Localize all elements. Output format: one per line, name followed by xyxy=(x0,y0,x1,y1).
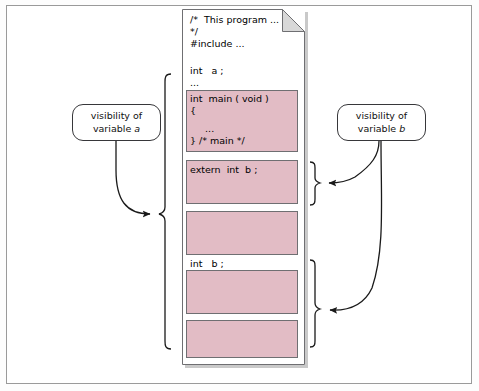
code-line-decl-a: int a ; xyxy=(190,65,224,77)
code-line-ellipsis: ... xyxy=(190,77,199,89)
code-block-extern-b-line-1: extern int b ; xyxy=(190,164,257,176)
callout-visibility-b-prefix: variable xyxy=(358,123,396,134)
code-line-comment-open: /* This program ... xyxy=(190,14,279,26)
callout-visibility-b-line1: visibility of xyxy=(356,110,407,123)
code-line-include: #include ... xyxy=(190,38,244,50)
callout-visibility-a-varname: a xyxy=(134,123,140,134)
code-line-decl-b: int b ; xyxy=(190,258,224,270)
code-line-comment-close: */ xyxy=(190,26,198,38)
code-block-function-3 xyxy=(186,211,298,255)
code-block-main-line-3: ... xyxy=(190,123,214,135)
figure-root: /* This program ... */ #include ... int … xyxy=(0,0,479,391)
code-block-main-line-2: { xyxy=(190,105,196,117)
callout-visibility-a-line1: visibility of xyxy=(91,110,142,123)
callout-visibility-a-line2: variable a xyxy=(93,123,140,136)
code-block-function-4 xyxy=(186,270,298,314)
callout-visibility-b-varname: b xyxy=(399,123,405,134)
code-block-main-line-4: } /* main */ xyxy=(190,135,245,147)
callout-visibility-a: visibility of variable a xyxy=(72,104,161,141)
code-block-main-line-1: int main ( void ) xyxy=(190,93,269,105)
callout-visibility-b: visibility of variable b xyxy=(337,104,426,141)
callout-visibility-a-prefix: variable xyxy=(93,123,131,134)
callout-visibility-b-line2: variable b xyxy=(358,123,405,136)
code-block-function-5 xyxy=(186,320,298,358)
